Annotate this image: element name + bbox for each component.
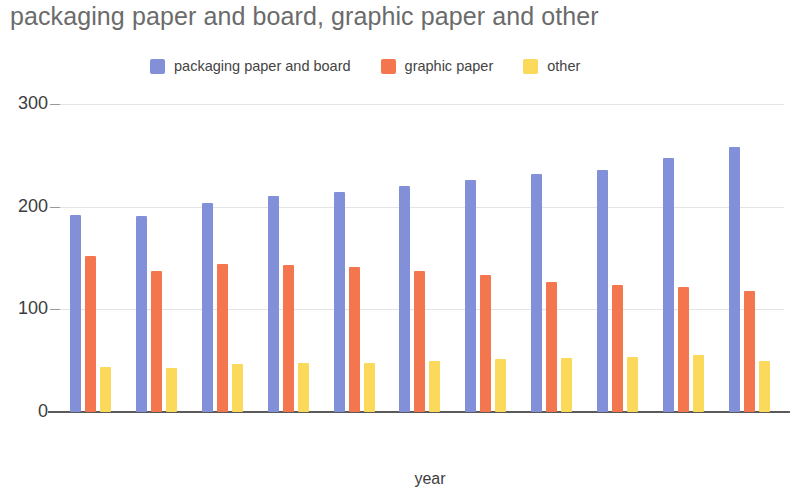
x-axis-title: year xyxy=(0,470,804,488)
bar-group-2011 xyxy=(257,104,323,412)
chart-legend: packaging paper and boardgraphic paperot… xyxy=(150,55,610,77)
bar-2009-series1[interactable] xyxy=(151,271,162,412)
legend-item-0[interactable]: packaging paper and board xyxy=(150,58,351,74)
y-axis-tick-label: 200 xyxy=(18,196,48,217)
bar-2016-series0[interactable] xyxy=(597,170,608,412)
legend-item-1[interactable]: graphic paper xyxy=(381,58,494,74)
bar-2011-series1[interactable] xyxy=(283,265,294,412)
y-axis-tick-label: 100 xyxy=(18,298,48,319)
legend-label: other xyxy=(547,58,580,74)
bar-group-2016 xyxy=(587,104,653,412)
bar-group-2009 xyxy=(126,104,192,412)
bar-2018-series0[interactable] xyxy=(729,147,740,412)
bar-group-2014 xyxy=(455,104,521,412)
bar-2018-series1[interactable] xyxy=(744,291,755,412)
legend-swatch-icon xyxy=(381,59,396,74)
y-axis-tick-label: 0 xyxy=(38,401,48,422)
bar-2016-series1[interactable] xyxy=(612,285,623,412)
bar-2013-series1[interactable] xyxy=(414,271,425,412)
bar-2010-series1[interactable] xyxy=(217,264,228,412)
bar-2008-series0[interactable] xyxy=(70,215,81,412)
bar-2008-series2[interactable] xyxy=(100,367,111,412)
y-axis-tick-label: 300 xyxy=(18,93,48,114)
bar-2013-series0[interactable] xyxy=(399,186,410,412)
legend-label: packaging paper and board xyxy=(174,58,351,74)
bar-group-2017 xyxy=(652,104,718,412)
legend-item-2[interactable]: other xyxy=(523,58,580,74)
bar-2015-series1[interactable] xyxy=(546,282,557,412)
bar-2010-series0[interactable] xyxy=(202,203,213,412)
bar-group-2013 xyxy=(389,104,455,412)
bar-2011-series0[interactable] xyxy=(268,196,279,412)
bar-group-2008 xyxy=(60,104,126,412)
y-axis-labels: 0100200300 xyxy=(0,104,52,412)
legend-swatch-icon xyxy=(150,59,165,74)
bar-2017-series0[interactable] xyxy=(663,158,674,412)
bar-group-2018 xyxy=(718,104,784,412)
bar-2014-series0[interactable] xyxy=(465,180,476,412)
bar-group-2012 xyxy=(323,104,389,412)
bar-2010-series2[interactable] xyxy=(232,364,243,412)
bar-2014-series2[interactable] xyxy=(495,359,506,412)
chart-title: packaging paper and board, graphic paper… xyxy=(10,2,599,31)
bar-2013-series2[interactable] xyxy=(429,361,440,412)
bar-2014-series1[interactable] xyxy=(480,275,491,412)
bar-2015-series0[interactable] xyxy=(531,174,542,412)
legend-swatch-icon xyxy=(523,59,538,74)
bar-2017-series2[interactable] xyxy=(693,355,704,412)
bar-2012-series1[interactable] xyxy=(349,267,360,412)
legend-label: graphic paper xyxy=(405,58,494,74)
bar-2015-series2[interactable] xyxy=(561,358,572,412)
bar-2012-series0[interactable] xyxy=(334,192,345,412)
bar-groups: 2008200920102011201220132014201520162017… xyxy=(60,104,784,412)
y-axis-tickmark xyxy=(50,104,60,105)
bar-2016-series2[interactable] xyxy=(627,357,638,412)
bar-2008-series1[interactable] xyxy=(85,256,96,412)
bar-2018-series2[interactable] xyxy=(759,361,770,412)
y-axis-tickmark xyxy=(50,207,60,208)
bar-2009-series2[interactable] xyxy=(166,368,177,412)
bar-2012-series2[interactable] xyxy=(364,363,375,412)
y-axis-tickmark xyxy=(50,309,60,310)
bar-2009-series0[interactable] xyxy=(136,216,147,412)
bar-group-2015 xyxy=(521,104,587,412)
bar-2011-series2[interactable] xyxy=(298,363,309,412)
x-axis-title-text: year xyxy=(414,470,445,488)
bar-2017-series1[interactable] xyxy=(678,287,689,412)
bar-chart: packaging paper and board, graphic paper… xyxy=(0,0,804,498)
bar-group-2010 xyxy=(192,104,258,412)
